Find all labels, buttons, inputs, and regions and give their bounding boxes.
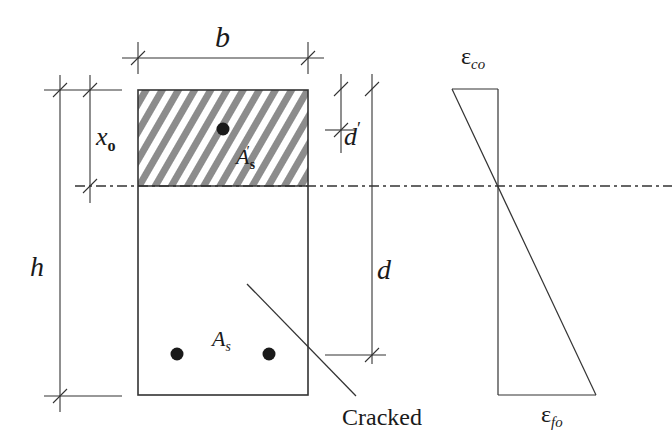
compression-steel-sub: s xyxy=(250,157,255,172)
strain-diagram xyxy=(452,89,596,395)
tension-steel-main: A xyxy=(212,326,225,351)
section-diagram: b h xo d′ d A′s As Cracked εco εfo xyxy=(0,0,672,445)
effective-depth-dimension xyxy=(325,74,386,364)
tension-rebar-left xyxy=(171,348,184,361)
compression-steel-label: A′s xyxy=(236,143,255,172)
tension-steel-sub: s xyxy=(225,339,230,354)
crack-label: Cracked xyxy=(342,405,422,429)
bottom-strain-main: ε xyxy=(541,401,551,427)
cover-label-prime: ′ xyxy=(357,119,361,139)
neutral-axis-depth-main: x xyxy=(96,122,108,151)
cover-label: d′ xyxy=(344,120,361,150)
bottom-strain-label: εfo xyxy=(541,402,563,430)
effective-depth-label: d xyxy=(377,256,391,284)
width-label: b xyxy=(215,22,230,52)
diagram-drawing xyxy=(0,0,672,445)
crack-line xyxy=(247,284,356,396)
tension-steel-label: As xyxy=(212,328,231,353)
tension-rebar-right xyxy=(263,348,276,361)
neutral-axis-depth-sub: o xyxy=(108,137,116,154)
cover-label-main: d xyxy=(344,122,357,151)
neutral-axis-depth-dimension xyxy=(83,75,97,203)
height-label: h xyxy=(30,253,44,281)
neutral-axis-depth-label: xo xyxy=(96,124,116,154)
top-strain-sub: co xyxy=(471,56,485,72)
compression-rebar xyxy=(217,123,230,136)
compression-zone-hatch xyxy=(138,90,308,186)
top-strain-label: εco xyxy=(461,44,485,72)
top-strain-main: ε xyxy=(461,43,471,69)
bottom-strain-sub: fo xyxy=(551,414,563,430)
